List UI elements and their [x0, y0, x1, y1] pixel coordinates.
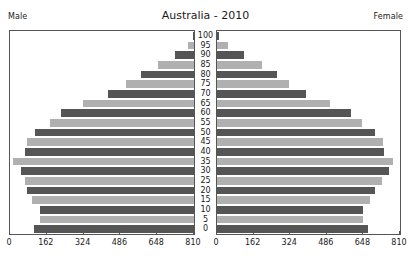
x-tick-label: 486	[112, 238, 127, 247]
female-xtick-labels: 0162324486648810	[216, 238, 401, 252]
axis-tick	[216, 231, 217, 235]
age-tick-label: 10	[195, 206, 216, 214]
age-tick-label: 80	[195, 71, 216, 79]
age-tick-label: 95	[195, 42, 216, 50]
age-tick-label: 60	[195, 109, 216, 117]
age-axis-labels: 0510152025303540455055606570758085909510…	[195, 30, 216, 235]
x-tick-label: 486	[318, 238, 333, 247]
axis-tick	[289, 231, 290, 235]
x-tick-label: 324	[75, 238, 90, 247]
age-tick-label: 15	[195, 196, 216, 204]
population-pyramid-chart: Male Australia - 2010 Female 05101520253…	[0, 0, 411, 267]
age-tick-label: 0	[195, 225, 216, 233]
age-tick-label: 30	[195, 167, 216, 175]
x-tick-label: 648	[149, 238, 164, 247]
x-tick-label: 162	[38, 238, 53, 247]
axis-tick	[193, 231, 194, 235]
x-tick-label: 324	[282, 238, 297, 247]
age-tick-label: 75	[195, 80, 216, 88]
age-tick-label: 65	[195, 100, 216, 108]
age-tick-label: 85	[195, 61, 216, 69]
chart-title: Australia - 2010	[0, 9, 411, 22]
female-axis-ticks	[216, 30, 401, 235]
age-tick-label: 5	[195, 216, 216, 224]
age-tick-label: 40	[195, 148, 216, 156]
axis-tick	[9, 231, 10, 235]
x-tick-label: 810	[391, 238, 406, 247]
female-axis-label: Female	[373, 12, 403, 21]
age-tick-label: 55	[195, 119, 216, 127]
age-tick-label: 90	[195, 51, 216, 59]
axis-tick	[253, 231, 254, 235]
age-tick-label: 35	[195, 158, 216, 166]
male-axis-ticks	[9, 30, 195, 235]
axis-tick	[119, 231, 120, 235]
x-tick-label: 162	[245, 238, 260, 247]
male-xtick-labels: 0162324486648810	[9, 238, 195, 252]
axis-tick	[362, 231, 363, 235]
x-tick-label: 0	[213, 238, 218, 247]
age-tick-label: 20	[195, 187, 216, 195]
age-tick-label: 70	[195, 90, 216, 98]
x-tick-label: 810	[185, 238, 200, 247]
age-tick-label: 50	[195, 129, 216, 137]
axis-tick	[156, 231, 157, 235]
age-tick-label: 100	[195, 32, 216, 40]
axis-tick	[326, 231, 327, 235]
age-tick-label: 45	[195, 138, 216, 146]
axis-tick	[46, 231, 47, 235]
age-tick-label: 25	[195, 177, 216, 185]
axis-tick	[399, 231, 400, 235]
x-tick-label: 648	[355, 238, 370, 247]
x-tick-label: 0	[6, 238, 11, 247]
axis-tick	[83, 231, 84, 235]
